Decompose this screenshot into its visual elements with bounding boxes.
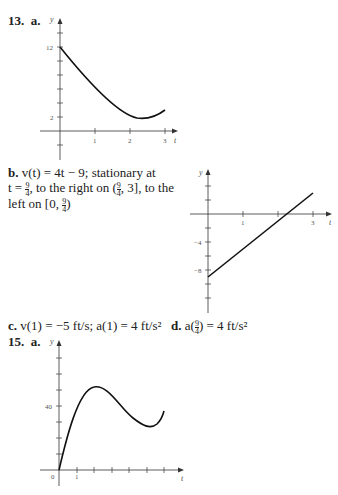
- text: , to the right on (: [29, 180, 116, 195]
- tick-label: 40: [45, 403, 53, 411]
- graph-13b-ylabel: y: [198, 168, 203, 177]
- part-b-line3: left on [0, 94): [8, 196, 71, 213]
- tick-label: 3: [163, 137, 167, 145]
- graph-15a: [40, 340, 184, 486]
- graph-13b: [190, 169, 332, 313]
- line-13b: [208, 193, 313, 277]
- tick-label: 0: [51, 473, 55, 481]
- text: t =: [8, 180, 25, 195]
- text: , 3], to the: [121, 180, 174, 195]
- graphs-layer: y t 12 2 1 2 3 y t −4 −8 1 3: [0, 0, 338, 495]
- graph-15a-xlabel: t: [181, 474, 184, 483]
- part-b-line2: t = 94, to the right on (94, 3], to the: [8, 180, 174, 197]
- problem-13-heading: 13. a.: [8, 13, 41, 28]
- problem-15-heading: 15. a.: [8, 334, 41, 349]
- part-c-text: v(1) = −5 ft/s; a(1) = 4 ft/s²: [20, 318, 161, 333]
- curve-15a: [59, 387, 164, 470]
- part-c-d-line: c. v(1) = −5 ft/s; a(1) = 4 ft/s² d. a(9…: [8, 318, 247, 335]
- part-label: a.: [31, 13, 41, 28]
- tick-label: 3: [311, 219, 315, 227]
- tick-label: 2: [128, 137, 132, 145]
- tick-label: 1: [241, 219, 245, 227]
- text: a(: [185, 318, 195, 333]
- tick-label: 1: [93, 137, 97, 145]
- tick-label: 2: [50, 114, 54, 122]
- tick-label: −4: [194, 239, 202, 247]
- part-label: a.: [31, 334, 41, 349]
- tick-label: 12: [46, 44, 54, 52]
- text: ): [66, 196, 70, 211]
- problem-number: 13.: [8, 13, 24, 28]
- part-b-line1: b. v(t) = 4t − 9; stationary at: [8, 165, 156, 180]
- part-label: c.: [8, 318, 17, 333]
- part-b-text: v(t) = 4t − 9; stationary at: [22, 165, 156, 180]
- curve-13a: [60, 47, 165, 118]
- graph-13a: [40, 18, 178, 160]
- tick-label: 1: [75, 473, 79, 481]
- graph-13b-xlabel: t: [329, 218, 332, 227]
- text: ) = 4 ft/s²: [199, 318, 247, 333]
- part-label: b.: [8, 165, 18, 180]
- text: left on [0,: [8, 196, 62, 211]
- graph-15a-ylabel: y: [49, 337, 54, 346]
- problem-number: 15.: [8, 334, 24, 349]
- graph-13a-xlabel: t: [174, 136, 177, 145]
- graph-13a-ylabel: y: [49, 15, 54, 24]
- part-label: d.: [171, 318, 181, 333]
- tick-label: −8: [194, 267, 202, 275]
